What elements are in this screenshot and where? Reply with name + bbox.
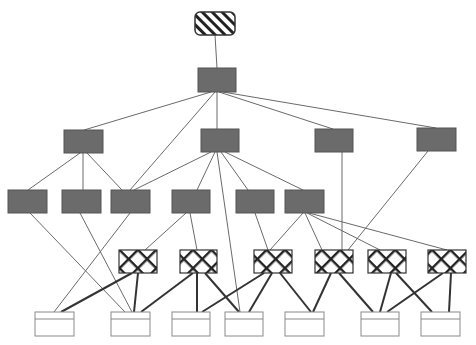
node-L3c (315, 129, 353, 152)
node-L4f (285, 190, 324, 213)
node-L4d (172, 190, 210, 213)
edge-L4d-X1 (145, 213, 186, 250)
edge-L3d-X4 (348, 151, 428, 250)
node-L2 (198, 68, 236, 92)
node-B3 (172, 312, 210, 336)
edge-L2-L3a (84, 92, 211, 130)
edge-L3a-L4c (87, 153, 122, 190)
edge-L4f-X4 (305, 213, 322, 250)
node-L4a (8, 190, 47, 213)
edge-X1-B2 (134, 273, 138, 312)
edge-X4-B6 (339, 273, 373, 312)
node-L3b (201, 129, 239, 152)
edge-L4f-X5 (307, 213, 380, 250)
node-X2 (180, 250, 217, 273)
edge-L3b-L4e (221, 152, 248, 190)
edge-L2-L3c (219, 92, 333, 129)
node-B6 (361, 312, 399, 336)
node-L4b (62, 190, 101, 213)
hierarchy-diagram (0, 0, 476, 345)
node-L3a (64, 130, 103, 153)
edge-X2-B2 (141, 273, 193, 312)
node-L4e (236, 190, 274, 213)
edge-L3b-L4f (225, 152, 303, 190)
edge-L4f-X6 (309, 213, 447, 250)
edge-X3-B4 (249, 273, 272, 312)
edge-L4a-B2 (30, 213, 125, 312)
node-X4 (315, 250, 353, 273)
node-X3 (254, 250, 292, 273)
node-B5 (285, 312, 324, 336)
edge-X6-B6 (387, 273, 443, 312)
edge-L4e-X3 (255, 213, 268, 250)
edge-L4f-X3 (270, 213, 303, 250)
node-B2 (111, 312, 150, 336)
node-B4 (225, 312, 263, 336)
edge-L2-L3d (223, 92, 436, 128)
node-B1 (35, 312, 74, 336)
node-X5 (368, 250, 406, 273)
node-X1 (119, 250, 157, 273)
node-root (195, 12, 235, 35)
node-B7 (421, 312, 460, 336)
node-X6 (428, 250, 466, 273)
edge-L3b-B4 (217, 152, 240, 312)
edge-X4-B5 (313, 273, 331, 312)
edge-X6-B7 (449, 273, 451, 312)
edge-X5-B6 (380, 273, 391, 312)
edge-X3-B5 (280, 273, 311, 312)
node-L3d (417, 128, 456, 151)
node-L4c (111, 190, 150, 213)
edge-root-L2 (215, 35, 217, 68)
edge-L3a-L4a (28, 153, 80, 190)
edge-L4d-X2 (190, 213, 197, 250)
